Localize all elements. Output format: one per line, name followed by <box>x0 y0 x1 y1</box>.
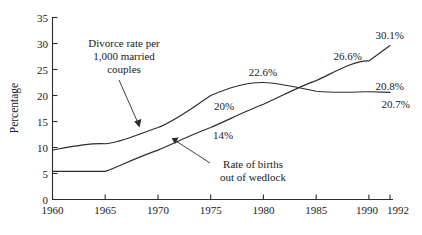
y-tick-label-35: 35 <box>37 12 49 24</box>
data-label-30-1-percent: 30.1% <box>376 29 404 41</box>
y-tick-label-30: 30 <box>37 38 49 50</box>
y-axis-title: Percentage <box>8 83 21 133</box>
x-tick-label-1992: 1992 <box>387 204 409 216</box>
y-tick-label-15: 15 <box>37 116 49 128</box>
callout-divorce-line1: Divorce rate per <box>88 37 160 49</box>
data-label-20-7-percent: 20.7% <box>382 98 410 110</box>
y-tick-label-20: 20 <box>37 90 49 102</box>
x-tick-label-1980: 1980 <box>252 204 275 216</box>
callout-divorce-line3: couples <box>107 63 141 75</box>
callout-births-line2: out of wedlock <box>220 171 286 183</box>
x-tick-label-1985: 1985 <box>305 204 328 216</box>
x-tick-label-1965: 1965 <box>94 204 117 216</box>
y-tick-label-10: 10 <box>37 142 49 154</box>
x-tick-label-1975: 1975 <box>200 204 223 216</box>
callout-births-line1: Rate of births <box>223 158 283 170</box>
x-tick-label-1990: 1990 <box>356 204 379 216</box>
x-tick-label-1970: 1970 <box>147 204 170 216</box>
data-label-22-6-percent: 22.6% <box>249 66 277 78</box>
data-label-26-6-percent: 26.6% <box>334 50 362 62</box>
x-tick-label-1960: 1960 <box>42 204 65 216</box>
line-chart-canvas: 35 30 25 20 15 10 5 0 Percentage 1960 19… <box>0 0 422 235</box>
chart-figure: 35 30 25 20 15 10 5 0 Percentage 1960 19… <box>0 0 422 235</box>
y-tick-label-5: 5 <box>43 168 49 180</box>
data-label-20-percent: 20% <box>214 100 234 112</box>
y-tick-label-25: 25 <box>37 64 49 76</box>
data-label-14-percent: 14% <box>213 129 233 141</box>
callout-divorce-line2: 1,000 married <box>93 50 155 62</box>
data-label-20-8-percent: 20.8% <box>376 80 404 92</box>
